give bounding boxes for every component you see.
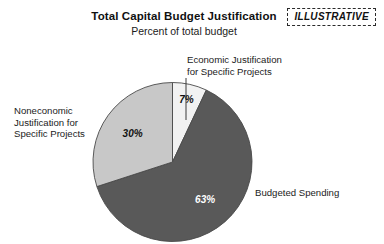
pie-chart-svg: 7%63%30% — [0, 0, 384, 244]
pie-slice-value: 63% — [195, 194, 215, 205]
pie-chart: 7%63%30% — [0, 0, 384, 244]
pie-slice-value: 7% — [179, 94, 194, 105]
chart-page: Total Capital Budget Justification Perce… — [0, 0, 384, 244]
pie-slices — [93, 83, 252, 242]
pie-slice-value: 30% — [123, 128, 143, 139]
